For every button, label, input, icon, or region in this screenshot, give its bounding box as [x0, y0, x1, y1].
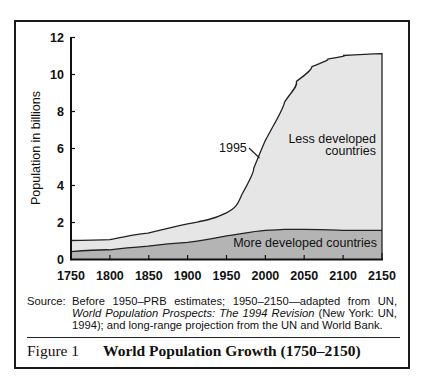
figure-number: Figure 1 — [27, 342, 79, 360]
x-tick-label: 2000 — [251, 269, 279, 283]
y-tick-label: 4 — [57, 179, 64, 193]
y-tick-label: 8 — [57, 105, 64, 119]
source-publication: World Population Prospects: The 1994 Rev… — [72, 307, 314, 319]
x-tick-label: 2150 — [368, 269, 396, 283]
y-tick-label: 2 — [57, 216, 64, 230]
x-tick-label: 1850 — [135, 269, 163, 283]
caption-divider — [27, 337, 400, 338]
more-developed-label: More developed countries — [233, 236, 377, 250]
y-tick-label: 6 — [57, 142, 64, 156]
x-tick-label: 1750 — [57, 269, 85, 283]
marker-1995-label: 1995 — [219, 141, 247, 155]
x-tick-label: 2050 — [290, 269, 318, 283]
figure-title: World Population Growth (1750–2150) — [103, 342, 361, 360]
x-tick-label: 1950 — [213, 269, 241, 283]
less-developed-label-line2: countries — [325, 144, 376, 158]
y-axis-label: Population in billions — [29, 91, 43, 205]
y-tick-label: 12 — [50, 31, 64, 45]
source-text-1: Before 1950–PRB estimates; 1950–2150—ada… — [72, 295, 397, 307]
y-tick-label: 10 — [50, 68, 64, 82]
source-body: Before 1950–PRB estimates; 1950–2150—ada… — [72, 295, 397, 331]
x-tick-label: 2100 — [329, 269, 357, 283]
marker-1995-leader — [249, 148, 260, 158]
source-note: Source: Before 1950–PRB estimates; 1950–… — [27, 295, 397, 331]
x-tick-label: 1900 — [174, 269, 202, 283]
population-chart: 0 2 4 6 8 10 12 1750 1800 1850 1900 1950… — [0, 0, 428, 300]
source-label: Source: — [27, 295, 66, 307]
y-tick-label: 0 — [57, 253, 64, 267]
x-tick-label: 1800 — [96, 269, 124, 283]
